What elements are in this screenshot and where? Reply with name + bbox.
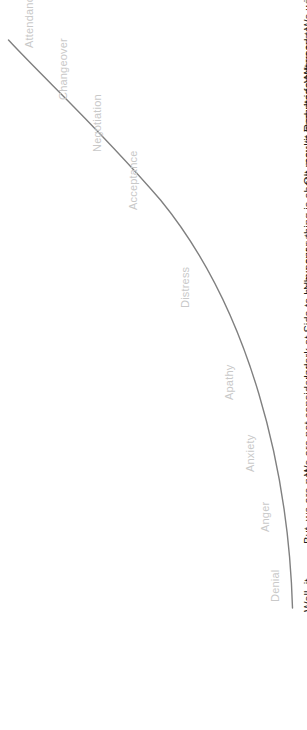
- quote-attendance: We will be the best in the world!: [300, 0, 307, 30]
- stage-label-negotiation: Negotiation: [90, 94, 102, 152]
- change-curve-diagram: Denial Anger Anxiety Apathy Distress Acc…: [0, 0, 307, 730]
- change-curve-line: [0, 0, 307, 730]
- stage-label-anger: Anger: [258, 502, 270, 532]
- stage-label-distress: Distress: [178, 267, 190, 308]
- stage-label-acceptance: Acceptance: [126, 151, 138, 210]
- stage-label-apathy: Apathy: [222, 365, 234, 400]
- stage-label-changeover: Changeover: [56, 38, 68, 100]
- stage-label-attendance: Attendance: [22, 0, 34, 48]
- stage-label-anxiety: Anxiety: [243, 435, 255, 472]
- stage-label-denial: Denial: [268, 570, 280, 602]
